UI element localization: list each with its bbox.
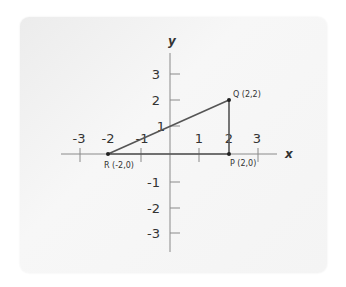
triangle-pqr bbox=[108, 100, 229, 154]
point-p-label: P (2,0) bbox=[230, 159, 256, 168]
x-tick-label: 1 bbox=[195, 131, 203, 146]
x-tick-label: 3 bbox=[253, 131, 261, 146]
x-tick-label: -3 bbox=[73, 131, 86, 146]
y-tick-label: -3 bbox=[147, 226, 160, 241]
point-r-label: R (-2,0) bbox=[104, 161, 134, 170]
x-axis-label: x bbox=[284, 147, 294, 161]
point-p bbox=[227, 152, 231, 156]
point-q bbox=[227, 98, 231, 102]
y-tick-label: -2 bbox=[147, 201, 160, 216]
x-tick-label: -2 bbox=[102, 131, 115, 146]
y-tick-label: 2 bbox=[152, 93, 160, 108]
y-axis-label: y bbox=[168, 34, 177, 48]
point-r bbox=[106, 152, 110, 156]
y-tick-label: 3 bbox=[152, 67, 160, 82]
coordinate-plane: -3 -2 -1 1 2 3 3 2 1 -1 -2 -3 x y Q (2,2… bbox=[0, 0, 346, 287]
point-q-label: Q (2,2) bbox=[233, 90, 261, 99]
y-tick-label: -1 bbox=[147, 175, 160, 190]
